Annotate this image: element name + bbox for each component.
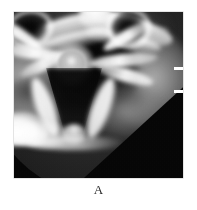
lateral-mass-left-mid	[14, 41, 65, 63]
inner-arch-left	[35, 23, 115, 56]
dens-odontoid-halo	[50, 42, 94, 86]
posterior-canal-wedge	[46, 68, 102, 134]
scale-tick-icon-2	[174, 90, 183, 93]
dens-odontoid-core	[58, 50, 86, 78]
lamina-left	[26, 75, 64, 139]
panel-label: A	[0, 182, 197, 198]
anterior-arch-left	[22, 12, 121, 53]
inner-arch-right	[83, 23, 163, 56]
lateral-mass-right-mid	[88, 50, 159, 70]
posterior-dark-left	[14, 76, 54, 110]
lateral-mass-right-lower	[95, 60, 155, 89]
figure-panel: A	[0, 0, 197, 210]
anterior-arch-right	[76, 12, 175, 53]
positioning-artifact-secondary	[14, 122, 70, 148]
positioning-artifact	[14, 112, 48, 146]
dens-odontoid-speck	[66, 56, 77, 66]
vertebral-canal-core	[62, 24, 128, 72]
transverse-foramen-right	[110, 12, 146, 45]
soft-tissue-posterolateral-left	[14, 82, 66, 140]
transverse-foramen-left-rim	[14, 12, 56, 52]
posterior-dark-right	[96, 84, 144, 114]
spinous-process	[62, 124, 86, 144]
soft-tissue-anterior	[30, 12, 170, 56]
scale-tick-icon-1	[174, 67, 183, 70]
lamina-right	[82, 75, 121, 141]
lateral-mass-right-upper	[101, 17, 154, 54]
transverse-foramen-right-rim	[104, 12, 154, 52]
transverse-foramen-left	[14, 13, 48, 46]
lateral-mass-left-lower	[18, 47, 68, 82]
soft-tissue-left	[14, 30, 68, 126]
anterior-arch-apex	[78, 12, 112, 21]
artifact-bottom-band	[28, 136, 124, 150]
vertebral-canal-region	[54, 34, 138, 108]
ct-scan-image[interactable]	[14, 12, 183, 178]
lateral-mass-left-upper	[14, 14, 45, 54]
